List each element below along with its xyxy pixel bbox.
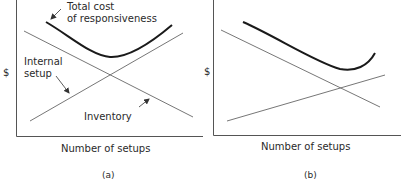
panel-a-total-cost-arrow-icon [51,9,61,19]
panel-a-total-cost-label-2: of responsiveness [67,13,157,24]
setup-cost-diagram: Total cost of responsiveness Internal se… [0,0,401,182]
panel-a-caption: (a) [102,170,115,180]
panel-b-x-axis-label: Number of setups [261,141,350,152]
panel-a: Total cost of responsiveness Internal se… [3,0,203,180]
panel-a-internal-label-1: Internal [24,56,63,67]
panel-b-y-axis-label: $ [204,66,210,77]
panel-a-total-cost-label-1: Total cost [66,1,114,12]
panel-b: $ Number of setups (b) [204,0,401,180]
panel-a-internal-setup-arrow-icon [56,76,69,93]
panel-b-total-cost-curve [243,22,375,70]
panel-a-inventory-arrow-icon [139,99,149,107]
panel-a-y-axis-label: $ [3,67,9,78]
panel-a-internal-label-2: setup [24,68,52,79]
panel-a-x-axis-label: Number of setups [61,143,150,154]
panel-a-inventory-label: Inventory [84,111,132,122]
panel-b-caption: (b) [304,170,317,180]
